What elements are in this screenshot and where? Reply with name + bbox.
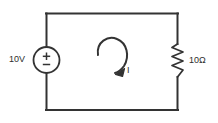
circuit-wires: [46, 14, 178, 111]
voltage-source-symbol: [34, 47, 60, 73]
resistor-zigzag: [172, 44, 183, 77]
resistor-value-label: 10Ω: [189, 56, 206, 65]
mesh-current-arc: [98, 38, 127, 73]
circuit-schematic: [0, 0, 218, 123]
mesh-current-label: I: [127, 66, 130, 75]
mesh-current-arrow: [98, 38, 127, 77]
circuit-diagram-canvas: 10V 10Ω I: [0, 0, 218, 123]
resistor-symbol: [172, 44, 183, 77]
source-voltage-label: 10V: [9, 55, 25, 64]
